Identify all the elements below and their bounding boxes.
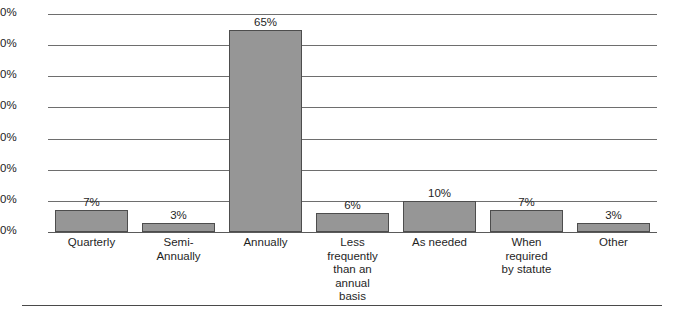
bar bbox=[490, 210, 563, 232]
gridline-0 bbox=[48, 232, 657, 233]
bar-group: 7% bbox=[483, 14, 570, 232]
x-axis-label-line: annual bbox=[309, 277, 396, 291]
bar bbox=[577, 223, 650, 232]
y-axis-tick-label: 20% bbox=[0, 162, 17, 174]
bar-value-label: 7% bbox=[48, 196, 135, 208]
bar-chart: 70%60%50%40%30%20%10%0% 7%3%65%6%10%7%3%… bbox=[0, 0, 679, 317]
x-axis-category-label: As needed bbox=[396, 236, 483, 250]
x-axis-label-line: frequently bbox=[309, 250, 396, 264]
x-axis-label-line: by statute bbox=[483, 263, 570, 277]
x-axis-category-label: Whenrequiredby statute bbox=[483, 236, 570, 277]
bar-value-label: 65% bbox=[222, 16, 309, 28]
y-axis-tick-label: 70% bbox=[0, 6, 17, 18]
x-axis-label-line: Other bbox=[570, 236, 657, 250]
bar-group: 10% bbox=[396, 14, 483, 232]
y-axis-tick-label: 40% bbox=[0, 99, 17, 111]
bar bbox=[55, 210, 128, 232]
x-axis-labels: QuarterlySemi-AnnuallyAnnuallyLessfreque… bbox=[48, 236, 657, 306]
footer-divider bbox=[22, 305, 662, 306]
y-axis-tick-label: 60% bbox=[0, 37, 17, 49]
x-axis-label-line: required bbox=[483, 250, 570, 264]
x-axis-label-line: basis bbox=[309, 290, 396, 304]
y-axis-tick-label: 0% bbox=[0, 224, 17, 236]
y-axis-tick-label: 50% bbox=[0, 68, 17, 80]
bar-value-label: 6% bbox=[309, 199, 396, 211]
bar bbox=[403, 201, 476, 232]
bar bbox=[316, 213, 389, 232]
bar-group: 3% bbox=[570, 14, 657, 232]
bar-value-label: 7% bbox=[483, 196, 570, 208]
bar-value-label: 3% bbox=[135, 209, 222, 221]
x-axis-label-line: Semi- bbox=[135, 236, 222, 250]
x-axis-label-line: Annually bbox=[135, 250, 222, 264]
x-axis-category-label: Quarterly bbox=[48, 236, 135, 250]
x-axis-category-label: Annually bbox=[222, 236, 309, 250]
bar-group: 3% bbox=[135, 14, 222, 232]
y-axis-tick-label: 10% bbox=[0, 193, 17, 205]
x-axis-label-line: Less bbox=[309, 236, 396, 250]
x-axis-category-label: Semi-Annually bbox=[135, 236, 222, 263]
bars-layer: 7%3%65%6%10%7%3% bbox=[48, 14, 657, 232]
y-axis-tick-label: 30% bbox=[0, 131, 17, 143]
x-axis-label-line: Quarterly bbox=[48, 236, 135, 250]
x-axis-category-label: Other bbox=[570, 236, 657, 250]
x-axis-label-line: Annually bbox=[222, 236, 309, 250]
x-axis-label-line: As needed bbox=[396, 236, 483, 250]
bar bbox=[229, 30, 302, 232]
x-axis-label-line: than an bbox=[309, 263, 396, 277]
x-axis-label-line: When bbox=[483, 236, 570, 250]
x-axis-category-label: Lessfrequentlythan anannualbasis bbox=[309, 236, 396, 304]
bar-group: 65% bbox=[222, 14, 309, 232]
bar-value-label: 3% bbox=[570, 209, 657, 221]
bar bbox=[142, 223, 215, 232]
bar-group: 6% bbox=[309, 14, 396, 232]
bar-group: 7% bbox=[48, 14, 135, 232]
bar-value-label: 10% bbox=[396, 187, 483, 199]
